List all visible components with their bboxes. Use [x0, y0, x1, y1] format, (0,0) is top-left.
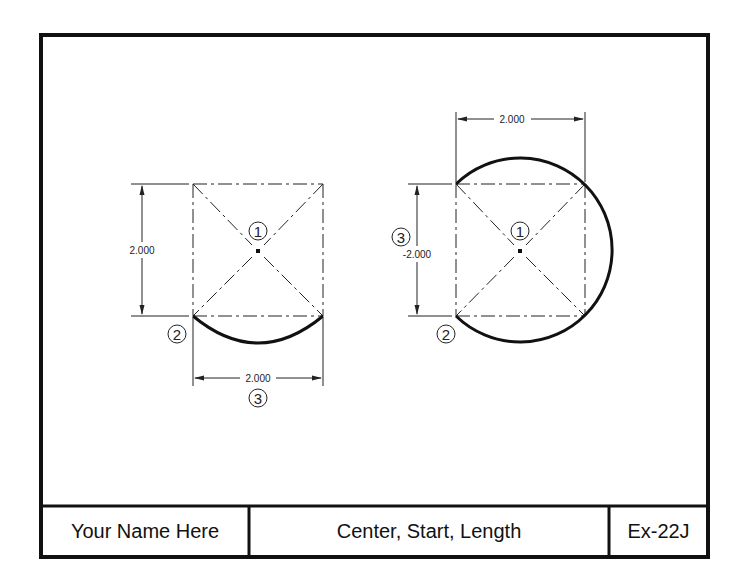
arrow-head-icon [140, 185, 145, 195]
drawing-sheet: 2.000 2.000 1 2 3 [0, 0, 744, 588]
title-block-name: Your Name Here [43, 508, 247, 555]
right-callout-start: 2 [437, 325, 455, 343]
left-center-point [256, 249, 260, 253]
svg-text:1: 1 [516, 223, 524, 240]
svg-text:3: 3 [397, 229, 405, 246]
right-callout-length: 3 [392, 228, 410, 246]
arrow-head-icon [312, 376, 322, 381]
right-center-point [518, 249, 522, 253]
left-callout-length: 3 [249, 389, 267, 407]
left-callout-start: 2 [168, 325, 186, 343]
arrow-head-icon [194, 376, 204, 381]
left-arc [193, 316, 323, 343]
arrow-head-icon [415, 305, 420, 315]
svg-text:2: 2 [442, 326, 450, 343]
title-block-exercise: Ex-22J [611, 508, 706, 555]
sheet-border [41, 35, 708, 557]
right-vertical-dimension: -2.000 [403, 249, 432, 260]
left-figure: 2.000 2.000 1 2 3 [129, 184, 323, 407]
title-block-title: Center, Start, Length [251, 508, 607, 555]
arrow-head-icon [457, 117, 467, 122]
arrow-head-icon [574, 117, 584, 122]
svg-text:3: 3 [254, 390, 262, 407]
left-horizontal-dimension: 2.000 [245, 373, 270, 384]
left-vertical-dimension: 2.000 [129, 245, 154, 256]
arrow-head-icon [415, 185, 420, 195]
right-horizontal-dimension: 2.000 [499, 114, 524, 125]
right-callout-center: 1 [511, 222, 529, 240]
svg-text:1: 1 [254, 223, 262, 240]
arrow-head-icon [140, 305, 145, 315]
svg-text:2: 2 [173, 326, 181, 343]
right-figure: 2.000 -2.000 1 2 3 [392, 112, 612, 343]
right-arc [456, 158, 612, 342]
left-callout-center: 1 [249, 222, 267, 240]
